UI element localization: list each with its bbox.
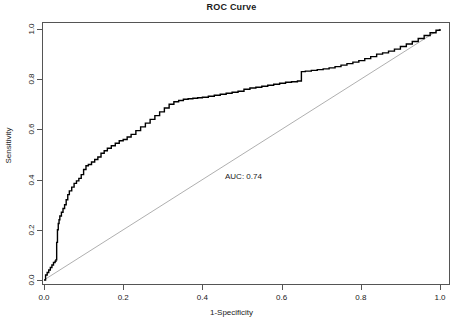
y-tick-mark xyxy=(37,230,42,231)
y-tick-label: 0.2 xyxy=(27,221,36,239)
plot-canvas xyxy=(44,29,440,280)
y-tick-label: 0.0 xyxy=(27,271,36,289)
x-tick-label: 0.4 xyxy=(197,293,208,302)
y-tick-mark xyxy=(37,129,42,130)
x-tick-label: 0.2 xyxy=(118,293,129,302)
x-tick-mark xyxy=(202,285,203,290)
x-tick-label: 0.8 xyxy=(355,293,366,302)
x-tick-mark xyxy=(361,285,362,290)
y-axis-title: Sensitivity xyxy=(4,116,13,176)
y-tick-mark xyxy=(37,29,42,30)
y-tick-mark xyxy=(37,280,42,281)
x-tick-mark xyxy=(282,285,283,290)
roc-curve-figure: ROC Curve AUC: 0.74 1-Specificity Sensit… xyxy=(0,0,463,326)
x-tick-label: 0.0 xyxy=(38,293,49,302)
x-axis-title: 1-Specificity xyxy=(0,308,463,317)
plot-area xyxy=(44,29,440,280)
auc-annotation: AUC: 0.74 xyxy=(225,172,262,181)
x-tick-mark xyxy=(440,285,441,290)
y-tick-mark xyxy=(37,79,42,80)
x-tick-mark xyxy=(123,285,124,290)
x-tick-label: 0.6 xyxy=(276,293,287,302)
y-tick-label: 0.8 xyxy=(27,70,36,88)
y-tick-label: 0.6 xyxy=(27,120,36,138)
x-tick-mark xyxy=(44,285,45,290)
y-tick-label: 1.0 xyxy=(27,20,36,38)
reference-diagonal-line xyxy=(44,29,440,280)
y-tick-mark xyxy=(37,180,42,181)
y-tick-label: 0.4 xyxy=(27,171,36,189)
page-title: ROC Curve xyxy=(0,2,463,12)
x-tick-label: 1.0 xyxy=(434,293,445,302)
